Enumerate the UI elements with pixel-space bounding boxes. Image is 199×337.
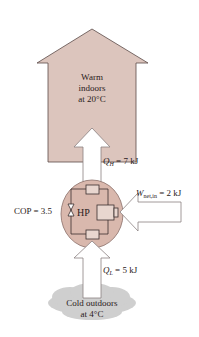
q-high-label: QH = 7 kJ [103,156,138,167]
q-high-value: = 7 kJ [114,156,138,166]
heat-pump-label: HP [77,207,90,218]
cold-line1: Cold outdoors [52,298,132,309]
warm-indoors-label: Warm indoors at 20°C [62,72,122,105]
diagram-canvas [0,0,199,337]
q-low-value: = 5 kJ [113,265,137,275]
q-low-label: QL = 5 kJ [103,265,137,276]
work-in-symbol: W [136,188,144,198]
work-in-value: = 2 kJ [157,188,181,198]
warm-line1: Warm [62,72,122,83]
cold-line2: at 4°C [52,309,132,320]
cop-label: COP = 3.5 [14,206,52,217]
work-in-subscript: net,in [144,193,158,199]
cold-outdoors-label: Cold outdoors at 4°C [52,298,132,320]
warm-line3: at 20°C [62,94,122,105]
warm-line2: indoors [62,83,122,94]
work-in-label: Wnet,in = 2 kJ [136,188,181,199]
